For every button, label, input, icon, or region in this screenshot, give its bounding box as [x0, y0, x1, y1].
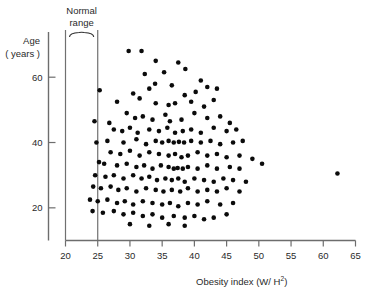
data-point — [92, 119, 97, 124]
data-point — [118, 152, 123, 157]
data-point — [102, 161, 107, 166]
x-tick-label-30: 30 — [125, 250, 136, 261]
x-tick-label-60: 60 — [318, 250, 329, 261]
data-point — [91, 184, 96, 189]
data-point — [237, 166, 242, 171]
data-point — [218, 142, 223, 147]
data-point — [183, 67, 188, 72]
data-point — [211, 98, 216, 103]
data-point — [115, 201, 120, 206]
data-point — [139, 176, 144, 181]
x-tick-label-50: 50 — [254, 250, 265, 261]
y-tick-label-60: 60 — [32, 72, 43, 83]
data-point — [134, 189, 139, 194]
data-point — [215, 189, 220, 194]
data-point — [208, 139, 213, 144]
data-point — [192, 111, 197, 116]
x-tick-label-40: 40 — [189, 250, 200, 261]
data-point — [202, 104, 207, 109]
data-point — [137, 96, 142, 101]
data-point — [131, 173, 136, 178]
data-point — [335, 171, 340, 176]
data-point — [95, 199, 100, 204]
data-point — [166, 139, 171, 144]
data-point — [186, 186, 191, 191]
data-point — [215, 166, 220, 171]
data-point — [173, 101, 178, 106]
normal-range-brace — [70, 32, 94, 37]
data-point — [147, 86, 152, 91]
data-point — [153, 59, 158, 64]
data-point — [186, 201, 191, 206]
data-point — [142, 163, 147, 168]
data-point — [141, 214, 146, 219]
data-point — [224, 155, 229, 160]
y-tick-label-20: 20 — [32, 202, 43, 213]
data-point — [121, 176, 126, 181]
data-point — [193, 90, 198, 95]
data-point — [231, 201, 236, 206]
data-point — [139, 49, 144, 54]
data-point — [171, 166, 176, 171]
data-point — [121, 140, 126, 145]
data-point — [211, 179, 216, 184]
plot-canvas: 20406020253035404550556065Age( years )Ob… — [0, 0, 372, 299]
normal-range-label-line2: range — [69, 17, 93, 28]
data-point — [211, 215, 216, 220]
data-point — [147, 127, 152, 132]
data-point — [153, 188, 158, 193]
data-point — [215, 86, 220, 91]
data-point — [176, 176, 181, 181]
data-point — [215, 152, 220, 157]
data-point — [231, 178, 236, 183]
data-point — [159, 163, 164, 168]
data-point — [192, 214, 197, 219]
y-axis-title-line2: ( years ) — [5, 48, 40, 59]
data-point — [234, 127, 239, 132]
data-point — [186, 153, 191, 158]
data-point — [195, 202, 200, 207]
data-point — [189, 127, 194, 132]
y-tick-label-40: 40 — [32, 137, 43, 148]
normal-range-label-line1: Normal — [66, 5, 97, 16]
data-point — [176, 204, 181, 209]
data-point-group — [88, 49, 340, 228]
data-point — [121, 212, 126, 217]
data-point — [108, 184, 113, 189]
data-point — [163, 176, 168, 181]
data-point — [135, 130, 140, 135]
data-point — [128, 222, 133, 227]
x-tick-label-55: 55 — [286, 250, 297, 261]
data-point — [115, 99, 120, 104]
data-point — [120, 129, 125, 134]
data-point — [153, 81, 158, 86]
data-point — [218, 114, 223, 119]
data-point — [211, 126, 216, 131]
data-point — [166, 165, 171, 170]
data-point — [142, 72, 147, 77]
data-point — [153, 139, 158, 144]
data-point — [150, 166, 155, 171]
data-point — [173, 152, 178, 157]
data-point — [88, 197, 93, 202]
data-point — [166, 222, 171, 227]
data-point — [205, 199, 210, 204]
data-point — [205, 116, 210, 121]
data-point — [105, 197, 110, 202]
data-point — [166, 153, 171, 158]
data-point — [202, 217, 207, 222]
data-point — [150, 117, 155, 122]
data-point — [176, 60, 181, 65]
data-point — [205, 153, 210, 158]
data-point — [224, 129, 229, 134]
data-point — [124, 161, 129, 166]
data-point — [182, 224, 187, 229]
data-point — [231, 140, 236, 145]
x-tick-label-25: 25 — [92, 250, 103, 261]
data-point — [218, 202, 223, 207]
data-point — [99, 186, 104, 191]
data-point — [147, 150, 152, 155]
y-axis-title-line1: Age — [23, 35, 40, 46]
data-point — [202, 178, 207, 183]
data-point — [115, 163, 120, 168]
